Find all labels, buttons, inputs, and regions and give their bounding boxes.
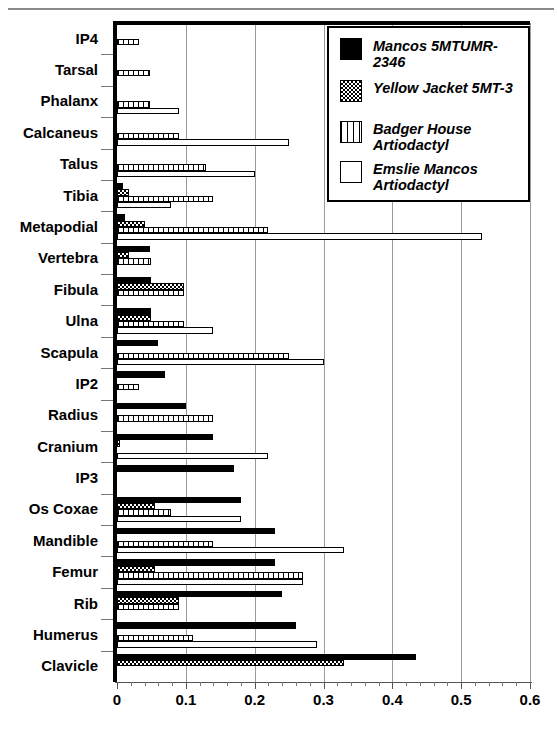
category-label-rib: Rib: [0, 595, 98, 612]
x-tick-label: 0.4: [382, 691, 403, 708]
category-label-scapula: Scapula: [0, 344, 98, 361]
bar: [117, 340, 158, 346]
category-label-os-coxae: Os Coxae: [0, 500, 98, 517]
bar: [117, 258, 151, 264]
x-tick-minor: [282, 682, 283, 686]
bar: [117, 139, 289, 145]
bar: [117, 622, 296, 628]
x-tick-minor: [172, 682, 173, 686]
bar: [117, 641, 317, 647]
category-label-vertebra: Vertebra: [0, 249, 98, 266]
bar: [117, 660, 344, 666]
x-tick-major: [392, 682, 393, 689]
x-tick-major: [117, 682, 118, 689]
bar: [117, 453, 268, 459]
category-label-ip2: IP2: [0, 375, 98, 392]
bar: [117, 39, 139, 45]
plot-top-border: [117, 21, 530, 25]
category-label-ip3: IP3: [0, 469, 98, 486]
x-tick-minor: [516, 682, 517, 686]
gridline: [530, 23, 531, 682]
bar: [117, 359, 324, 365]
x-tick-minor: [351, 682, 352, 686]
x-tick-minor: [200, 682, 201, 686]
x-tick-label: 0.2: [244, 691, 265, 708]
bar: [117, 108, 179, 114]
legend-item: Mancos 5MTUMR-2346: [340, 38, 523, 70]
x-tick-major: [186, 682, 187, 689]
x-tick-major: [324, 682, 325, 689]
x-tick-label: 0: [113, 691, 121, 708]
bar: [117, 547, 344, 553]
category-label-clavicle: Clavicle: [0, 657, 98, 674]
bar: [117, 516, 241, 522]
chart-legend: Mancos 5MTUMR-2346Yellow Jacket 5MT-3Bad…: [327, 26, 530, 202]
bar: [117, 403, 186, 409]
legend-label: Emslie Mancos Artiodactyl: [373, 161, 523, 193]
x-tick-minor: [241, 682, 242, 686]
x-tick-label: 0.6: [520, 691, 541, 708]
category-label-phalanx: Phalanx: [0, 92, 98, 109]
figure-top-rule: [8, 8, 554, 10]
category-label-humerus: Humerus: [0, 626, 98, 643]
legend-label: Badger House Artiodactyl: [373, 121, 523, 153]
solid-black-icon: [340, 38, 362, 60]
x-tick-minor: [502, 682, 503, 686]
x-tick-label: 0.5: [451, 691, 472, 708]
bar: [117, 327, 213, 333]
x-tick-major: [461, 682, 462, 689]
x-tick-minor: [227, 682, 228, 686]
x-tick-minor: [475, 682, 476, 686]
bar: [117, 604, 179, 610]
bar: [117, 384, 139, 390]
x-tick-major: [530, 682, 531, 689]
category-label-ip4: IP4: [0, 30, 98, 47]
bar: [117, 434, 213, 440]
x-tick-minor: [145, 682, 146, 686]
bar: [117, 70, 150, 76]
x-tick-minor: [434, 682, 435, 686]
x-tick-minor: [420, 682, 421, 686]
bar: [117, 579, 303, 585]
category-label-calcaneus: Calcaneus: [0, 124, 98, 141]
x-tick-minor: [365, 682, 366, 686]
category-label-mandible: Mandible: [0, 532, 98, 549]
bar: [117, 371, 165, 377]
bar: [117, 415, 213, 421]
gridline: [324, 23, 325, 682]
category-label-radius: Radius: [0, 406, 98, 423]
checker-icon: [340, 80, 362, 102]
legend-item: Yellow Jacket 5MT-3: [340, 80, 513, 102]
x-tick-minor: [213, 682, 214, 686]
category-label-cranium: Cranium: [0, 438, 98, 455]
x-tick-major: [255, 682, 256, 689]
x-tick-minor: [337, 682, 338, 686]
category-label-ulna: Ulna: [0, 312, 98, 329]
legend-label: Mancos 5MTUMR-2346: [373, 38, 523, 70]
x-tick-minor: [489, 682, 490, 686]
x-tick-label: 0.3: [313, 691, 334, 708]
category-label-tibia: Tibia: [0, 187, 98, 204]
bar: [117, 290, 184, 296]
category-label-fibula: Fibula: [0, 281, 98, 298]
legend-label: Yellow Jacket 5MT-3: [373, 80, 513, 96]
x-tick-minor: [268, 682, 269, 686]
category-label-metapodial: Metapodial: [0, 218, 98, 235]
bar: [117, 202, 171, 208]
x-tick-minor: [447, 682, 448, 686]
bar: [117, 233, 482, 239]
legend-item: Emslie Mancos Artiodactyl: [340, 161, 523, 193]
x-tick-minor: [296, 682, 297, 686]
bar: [117, 440, 120, 446]
x-tick-minor: [158, 682, 159, 686]
bar: [117, 171, 255, 177]
category-label-femur: Femur: [0, 563, 98, 580]
category-label-tarsal: Tarsal: [0, 61, 98, 78]
open-white-icon: [340, 161, 362, 183]
bar-chart: IP4TarsalPhalanxCalcaneusTalusTibiaMetap…: [0, 0, 558, 737]
x-tick-minor: [310, 682, 311, 686]
x-tick-minor: [379, 682, 380, 686]
vertical-hatch-icon: [340, 121, 362, 143]
x-tick-minor: [131, 682, 132, 686]
bar: [117, 465, 234, 471]
